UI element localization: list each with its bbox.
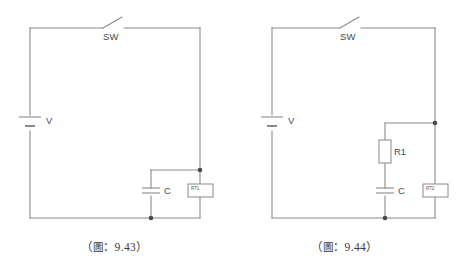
resistor-r1-body: [379, 140, 391, 163]
thermistor-rt1-label: RT1: [191, 187, 199, 192]
thermistor-rt2-label: RT2: [426, 187, 434, 192]
caption-close-paren: ）: [136, 241, 147, 253]
switch-label: SW: [103, 32, 119, 42]
capacitor-label: C: [164, 186, 171, 196]
junction-dot-bottom: [149, 216, 154, 221]
caption-open-paren: （: [311, 241, 322, 253]
caption-cjk-glyph: 圖: [323, 241, 333, 253]
caption-close-paren: ）: [366, 241, 377, 253]
caption-number: 9.44: [345, 241, 367, 253]
figure-9-43: SW V C RT1 （圖：9.43）: [0, 0, 229, 268]
switch-label: SW: [340, 32, 356, 42]
caption-cjk-glyph: 圖: [93, 241, 103, 253]
caption-open-paren: （: [81, 241, 92, 253]
switch-blade: [103, 17, 122, 28]
junction-dot-top-right: [433, 121, 438, 126]
figure-caption-9-44: （圖：9.44）: [230, 238, 459, 254]
figure-caption-9-43: （圖：9.43）: [0, 238, 229, 254]
figure-9-44: SW V R1 C RT2 （圖：9.44）: [230, 0, 459, 268]
battery-label: V: [46, 116, 52, 126]
caption-separator: ：: [103, 241, 114, 253]
switch-blade: [340, 17, 359, 28]
capacitor-label: C: [398, 186, 405, 196]
circuit-diagram-page: SW V C RT1 （圖：9.43）: [0, 0, 459, 268]
battery-label: V: [288, 116, 294, 126]
caption-number: 9.43: [115, 241, 137, 253]
resistor-r1-label: R1: [394, 147, 406, 157]
caption-separator: ：: [333, 241, 344, 253]
junction-dot-bottom: [383, 216, 388, 221]
junction-dot-top-right: [198, 168, 203, 173]
